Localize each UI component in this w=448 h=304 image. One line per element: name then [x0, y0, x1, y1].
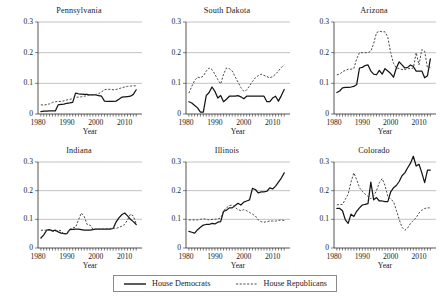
panel-illinois: Illinois00.10.20.31980199020002010Year	[152, 146, 302, 274]
panel-indiana: Indiana00.10.20.31980199020002010Year	[4, 146, 154, 274]
legend-label: House Democrats	[152, 279, 210, 288]
chart-legend: House DemocratsHouse Republicans	[113, 275, 337, 292]
x-tick-label: 2000	[230, 118, 258, 127]
y-tick-label: 0.3	[300, 17, 329, 26]
y-tick-label: 0.1	[152, 214, 181, 223]
series-house-democrats	[337, 59, 431, 93]
series-house-democrats	[41, 213, 136, 238]
x-tick-label: 2000	[82, 118, 110, 127]
x-tick-label: 1980	[320, 118, 348, 127]
y-tick-label: 0.3	[152, 157, 181, 166]
x-tick-label: 1980	[24, 252, 52, 261]
x-tick-label: 1990	[53, 118, 81, 127]
panel-pennsylvania: Pennsylvania00.10.20.31980199020002010Ye…	[4, 6, 154, 140]
y-tick-label: 0.1	[152, 78, 181, 87]
y-tick-label: 0.2	[152, 48, 181, 57]
legend-label: House Republicans	[264, 279, 327, 288]
x-tick-label: 1990	[348, 252, 376, 261]
x-tick-label: 1990	[348, 118, 376, 127]
series-house-republicans	[337, 31, 431, 75]
series-house-democrats	[189, 173, 284, 233]
panel-south-dakota: South Dakota00.10.20.31980199020002010Ye…	[152, 6, 302, 140]
y-tick-label: 0.3	[300, 157, 329, 166]
x-tick-label: 2010	[111, 252, 139, 261]
y-tick-label: 0.2	[300, 186, 329, 195]
legend-entry: House Democrats	[123, 279, 210, 288]
x-tick-label: 2010	[405, 252, 433, 261]
panel-arizona: Arizona00.10.20.31980199020002010Year	[300, 6, 448, 140]
legend-swatch-solid-line	[123, 280, 147, 288]
y-tick-label: 0.1	[4, 214, 33, 223]
series-house-republicans	[189, 65, 284, 93]
y-tick-label: 0.2	[300, 48, 329, 57]
x-axis-title: Year	[334, 127, 436, 136]
x-axis-title: Year	[186, 127, 290, 136]
y-tick-label: 0.3	[4, 17, 33, 26]
x-tick-label: 2000	[230, 252, 258, 261]
x-tick-label: 2010	[259, 118, 287, 127]
x-tick-label: 2000	[377, 252, 405, 261]
y-tick-label: 0.2	[4, 48, 33, 57]
legend-swatch-dashed-line	[235, 280, 259, 288]
x-axis-title: Year	[186, 261, 290, 270]
y-tick-label: 0.3	[4, 157, 33, 166]
series-house-republicans	[41, 86, 136, 105]
x-tick-label: 2010	[405, 118, 433, 127]
x-tick-label: 2000	[377, 118, 405, 127]
legend-entry: House Republicans	[235, 279, 327, 288]
series-house-democrats	[41, 90, 136, 112]
y-tick-label: 0.1	[4, 78, 33, 87]
y-tick-label: 0.3	[152, 17, 181, 26]
series-house-democrats	[337, 156, 431, 223]
y-tick-label: 0.2	[152, 186, 181, 195]
x-tick-label: 2010	[111, 118, 139, 127]
x-tick-label: 1980	[172, 118, 200, 127]
series-house-republicans	[41, 213, 136, 234]
x-tick-label: 1980	[320, 252, 348, 261]
x-tick-label: 1990	[201, 118, 229, 127]
y-tick-label: 0.1	[300, 214, 329, 223]
x-axis-title: Year	[38, 127, 142, 136]
y-tick-label: 0.2	[4, 186, 33, 195]
x-tick-label: 1980	[24, 118, 52, 127]
x-tick-label: 1980	[172, 252, 200, 261]
x-tick-label: 2010	[259, 252, 287, 261]
x-axis-title: Year	[334, 261, 436, 270]
x-tick-label: 1990	[201, 252, 229, 261]
small-multiples-figure: Pennsylvania00.10.20.31980199020002010Ye…	[0, 0, 448, 304]
x-tick-label: 1990	[53, 252, 81, 261]
x-tick-label: 2000	[82, 252, 110, 261]
y-tick-label: 0.1	[300, 78, 329, 87]
series-house-democrats	[189, 87, 284, 112]
panel-colorado: Colorado00.10.20.31980199020002010Year	[300, 146, 448, 274]
x-axis-title: Year	[38, 261, 142, 270]
